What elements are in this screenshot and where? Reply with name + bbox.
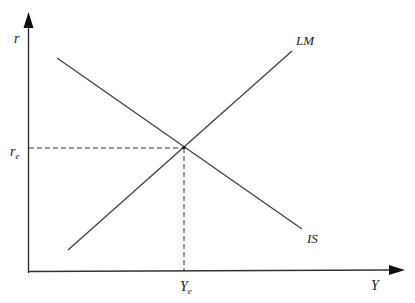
ye-label-base: Y — [180, 279, 188, 294]
re-label: re — [10, 145, 19, 161]
is-lm-diagram: r Y LM IS re Ye — [0, 0, 415, 303]
y-axis-label: r — [14, 32, 19, 46]
x-axis-label: Y — [371, 279, 379, 293]
diagram-canvas — [0, 0, 415, 303]
lm-curve-label: LM — [296, 34, 314, 47]
is-curve — [57, 58, 302, 229]
ye-label: Ye — [180, 280, 192, 296]
y-axis-arrow-icon — [24, 12, 34, 28]
x-axis — [28, 270, 392, 272]
lm-curve — [68, 51, 292, 250]
equilibrium-point — [182, 146, 185, 149]
re-label-sub: e — [15, 151, 19, 161]
x-axis-arrow-icon — [389, 265, 405, 275]
is-curve-label: IS — [307, 232, 318, 245]
ye-label-sub: e — [188, 286, 192, 296]
